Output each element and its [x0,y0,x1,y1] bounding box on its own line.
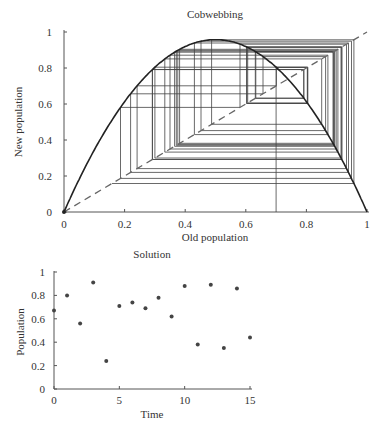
data-point [196,343,200,347]
x-tick-label: 0.2 [118,218,132,230]
x-tick-label: 0.4 [178,218,192,230]
cobweb-chart: Cobwebbing 00.20.40.60.8100.20.40.60.81 … [12,8,370,243]
data-point [183,284,187,288]
cobweb-lines [112,40,354,212]
solution-chart: Solution 05101500.20.40.60.81 Time Popul… [14,248,256,420]
solution-title: Solution [133,248,171,260]
y-tick-label: 0.4 [31,336,45,348]
data-point [117,304,121,308]
x-tick-label: 0 [51,394,57,406]
solution-points [52,281,252,363]
data-point [235,286,239,290]
y-tick-label: 0.8 [38,62,52,74]
figure: Cobwebbing 00.20.40.60.8100.20.40.60.81 … [0,0,384,434]
y-tick-label: 0 [40,383,46,395]
y-tick-label: 0.2 [31,360,45,372]
x-tick-label: 10 [179,394,191,406]
x-tick-label: 0.8 [300,218,314,230]
x-tick-label: 0 [61,218,67,230]
data-point [91,281,95,285]
y-tick-label: 0.2 [38,170,52,182]
solution-ylabel: Population [14,308,26,356]
x-tick-label: 1 [364,218,370,230]
x-tick-label: 0.6 [239,218,253,230]
cobweb-ylabel: New population [12,86,24,157]
solution-xlabel: Time [141,408,164,420]
y-tick-label: 1 [47,26,53,38]
data-point [170,314,174,318]
origin-point [62,210,66,214]
y-tick-label: 0.4 [38,134,52,146]
data-point [104,359,108,363]
data-point [248,336,252,340]
cobweb-title: Cobwebbing [187,8,244,20]
solution-axes: 05101500.20.40.60.81 [31,266,256,406]
cobweb-xlabel: Old population [182,231,249,243]
data-point [65,293,69,297]
data-point [130,300,134,304]
data-point [157,296,161,300]
x-tick-label: 15 [245,394,257,406]
y-tick-label: 0 [47,206,53,218]
data-point [222,346,226,350]
y-tick-label: 0.8 [31,289,45,301]
data-point [78,321,82,325]
y-tick-label: 0.6 [38,98,52,110]
data-point [143,306,147,310]
data-point [52,309,56,313]
y-tick-label: 1 [40,266,46,278]
data-point [209,283,213,287]
y-tick-label: 0.6 [31,313,45,325]
x-tick-label: 5 [117,394,123,406]
